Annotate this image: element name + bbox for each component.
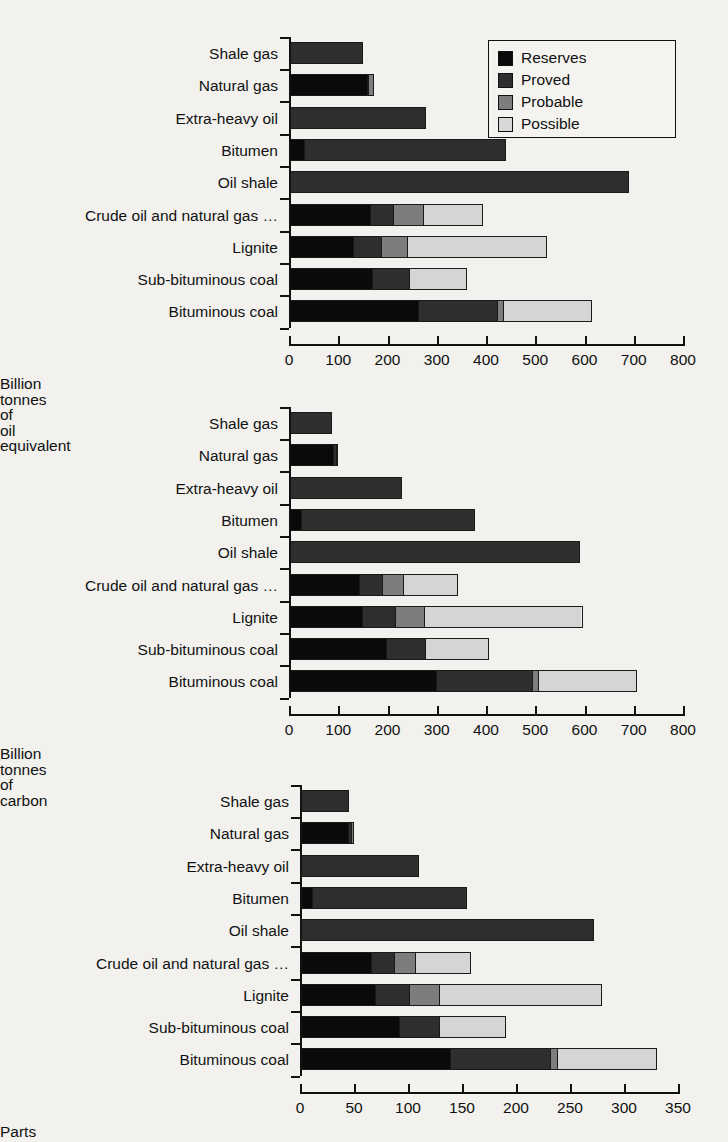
bar-segment-proved	[301, 510, 474, 530]
category-label: Natural gas	[0, 78, 278, 94]
y-axis-tick	[280, 536, 289, 538]
y-axis-tick	[280, 198, 289, 200]
y-axis-tick	[291, 1076, 300, 1078]
x-axis-tick	[570, 1084, 572, 1092]
bar-segment-reserves	[301, 823, 348, 843]
x-axis-tick-label: 100	[325, 722, 351, 738]
bar-segment-probable	[381, 237, 406, 257]
bar-crude-oil-and-natural-gas	[289, 574, 458, 596]
x-axis-tick	[585, 336, 587, 344]
chart-panel-2: Shale gasNatural gasExtra-heavy oilBitum…	[0, 382, 728, 752]
x-axis-tick	[338, 336, 340, 344]
category-label: Bitumen	[0, 513, 278, 529]
legend: Reserves Proved Probable Possible	[488, 40, 676, 138]
category-label: Extra-heavy oil	[0, 859, 289, 875]
category-label: Crude oil and natural gas …	[0, 956, 289, 972]
bar-sub-bituminous-coal	[289, 638, 489, 660]
y-axis-tick	[280, 698, 289, 700]
legend-item-reserves: Reserves	[498, 47, 667, 69]
y-axis-tick	[280, 166, 289, 168]
bar-segment-proved	[399, 1017, 439, 1037]
bar-segment-reserves	[301, 985, 375, 1005]
y-axis-tick	[280, 601, 289, 603]
y-axis-tick	[280, 69, 289, 71]
y-axis-tick	[280, 568, 289, 570]
x-axis-tick	[585, 706, 587, 714]
bar-segment-proved	[436, 671, 532, 691]
bar-segment-proved	[353, 237, 382, 257]
y-axis-tick	[291, 979, 300, 981]
x-axis-tick-label: 50	[345, 1100, 362, 1116]
legend-label-possible: Possible	[521, 116, 580, 132]
bar-sub-bituminous-coal	[289, 268, 467, 290]
x-axis-tick-label: 0	[296, 1100, 305, 1116]
bar-segment-probable	[336, 445, 337, 465]
y-axis-tick	[291, 817, 300, 819]
category-label: Shale gas	[0, 794, 289, 810]
y-axis-tick	[291, 946, 300, 948]
y-axis-tick	[291, 849, 300, 851]
bar-segment-possible	[503, 301, 591, 321]
legend-label-probable: Probable	[521, 94, 583, 110]
bar-natural-gas	[289, 74, 374, 96]
x-axis-tick	[535, 706, 537, 714]
x-axis-tick-label: 200	[375, 352, 401, 368]
bar-segment-probable	[382, 575, 403, 595]
legend-swatch-possible-icon	[498, 117, 513, 132]
y-axis-tick	[291, 1011, 300, 1013]
bar-natural-gas	[289, 444, 338, 466]
bar-segment-proved	[372, 269, 409, 289]
x-axis-tick	[437, 336, 439, 344]
bar-bitumen	[289, 139, 506, 161]
bar-segment-probable	[393, 205, 423, 225]
bar-segment-possible	[415, 953, 469, 973]
x-axis-tick	[338, 706, 340, 714]
x-axis-tick	[437, 706, 439, 714]
bar-segment-proved	[386, 639, 425, 659]
category-label: Oil shale	[0, 545, 278, 561]
x-axis-tick	[678, 1084, 680, 1092]
bar-bituminous-coal	[300, 1048, 657, 1070]
bar-segment-proved	[290, 413, 331, 433]
y-axis-line	[300, 785, 302, 1076]
bar-segment-reserves	[290, 301, 418, 321]
x-axis-line	[289, 344, 683, 346]
bar-segment-possible	[407, 237, 546, 257]
legend-item-proved: Proved	[498, 69, 667, 91]
bar-segment-probable	[351, 823, 353, 843]
bar-segment-proved	[375, 985, 409, 1005]
x-axis-tick-label: 600	[572, 722, 598, 738]
bar-segment-proved	[290, 172, 628, 192]
bar-segment-reserves	[290, 140, 304, 160]
x-axis-tick-label: 300	[424, 352, 450, 368]
bar-segment-proved	[362, 607, 395, 627]
chart-panel-3: Shale gasNatural gasExtra-heavy oilBitum…	[0, 748, 728, 1142]
y-axis-tick	[280, 134, 289, 136]
bar-segment-proved	[450, 1049, 550, 1069]
category-label: Shale gas	[0, 416, 278, 432]
bar-oil-shale	[300, 919, 594, 941]
bar-segment-probable	[368, 75, 373, 95]
bar-segment-probable	[394, 953, 415, 973]
bar-segment-proved	[371, 953, 393, 973]
x-axis-tick-label: 500	[522, 352, 548, 368]
x-axis-tick-label: 500	[522, 722, 548, 738]
bar-segment-reserves	[301, 888, 312, 908]
bar-extra-heavy-oil	[300, 855, 419, 877]
x-axis-tick	[388, 706, 390, 714]
bar-shale-gas	[300, 790, 349, 812]
x-axis-tick	[289, 706, 291, 714]
category-label: Crude oil and natural gas …	[0, 208, 278, 224]
category-label: Oil shale	[0, 175, 278, 191]
bar-segment-possible	[403, 575, 457, 595]
bar-bitumen	[300, 887, 467, 909]
bar-segment-proved	[290, 542, 579, 562]
bar-crude-oil-and-natural-gas	[289, 204, 483, 226]
category-label: Sub-bituminous coal	[0, 1020, 289, 1036]
x-axis-tick-label: 350	[665, 1100, 691, 1116]
y-axis-tick	[280, 504, 289, 506]
bar-segment-possible	[423, 205, 482, 225]
bar-segment-reserves	[290, 205, 370, 225]
bar-extra-heavy-oil	[289, 107, 426, 129]
y-axis-tick	[280, 295, 289, 297]
